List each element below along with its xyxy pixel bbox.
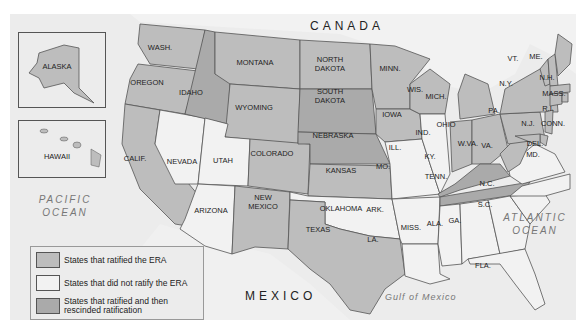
legend-label-not-ratified: States that did not ratify the ERA [64,279,187,288]
label-texas: TEXAS [306,225,331,234]
label-minn: MINN. [379,64,400,73]
label-arizona: ARIZONA [194,206,227,215]
label-north-dakota-1: NORTH [317,55,344,64]
label-sc: S.C. [478,200,493,209]
label-south-dakota-2: DAKOTA [315,96,345,105]
atlantic-ocean-label-2: OCEAN [512,225,558,236]
state-hawaii[interactable] [91,149,101,167]
alaska-inset: ALASKA [18,32,106,108]
label-nebraska: NEBRASKA [313,131,354,140]
label-md: MD. [526,150,540,159]
hawaii-island-1 [40,129,48,133]
label-iowa: IOWA [382,110,402,119]
era-ratification-map: CANADA MEXICO PACIFIC OCEAN ATLANTIC OCE… [10,14,576,320]
label-conn: CONN. [541,119,565,128]
label-ky: KY. [424,152,435,161]
label-montana: MONTANA [237,58,274,67]
hawaii-island-3 [73,142,81,148]
label-colorado: COLORADO [251,149,294,158]
label-ny: N.Y. [499,79,513,88]
label-wis: WIS. [407,85,423,94]
pacific-ocean-label-1: PACIFIC [39,194,92,205]
label-nj: N.J. [521,119,534,128]
label-ill: ILL. [389,143,402,152]
label-la: LA. [367,235,378,244]
legend-swatch-ratified [36,252,60,268]
canada-label: CANADA [310,19,384,33]
legend-item-not-ratified: States that did not ratify the ERA [36,273,198,293]
state-alaska[interactable] [29,45,94,103]
legend-label-ratified: States that ratified the ERA [64,256,167,265]
label-alaska: ALASKA [42,62,71,71]
label-fla: FLA. [475,261,491,270]
legend: States that ratified the ERA States that… [30,246,204,320]
gulf-of-mexico-label: Gulf of Mexico [385,292,457,302]
label-nh: N.H. [540,73,555,82]
label-idaho: IDAHO [179,88,203,97]
label-tenn: TENN. [425,172,448,181]
label-new-mexico-2: MEXICO [248,202,278,211]
state-wyoming[interactable] [225,84,300,144]
label-va: VA. [481,141,493,150]
label-miss: MISS. [401,223,421,232]
label-nc: N.C. [480,179,495,188]
label-ga: GA. [449,216,462,225]
label-kansas: KANSAS [326,166,356,175]
label-nevada: NEVADA [167,157,197,166]
label-ohio: OHIO [436,120,455,129]
label-ri: R.I. [542,104,554,113]
label-ala: ALA. [427,219,443,228]
label-ark: ARK. [366,205,384,214]
label-calif: CALIF. [124,154,147,163]
legend-swatch-not-ratified [36,275,60,291]
label-pa: PA. [488,106,500,115]
alaska-svg: ALASKA [19,33,105,107]
state-florida[interactable] [468,249,545,310]
label-del: DEL. [527,139,544,148]
label-vt: VT. [508,54,519,63]
label-north-dakota-2: DAKOTA [315,64,345,73]
label-mass: MASS. [542,89,565,98]
label-ind: IND. [416,128,431,137]
pacific-ocean-label-2: OCEAN [42,207,88,218]
legend-swatch-rescinded [36,298,60,314]
state-mississippi[interactable] [438,204,462,266]
label-wash: WASH. [148,43,172,52]
hawaii-inset: HAWAII [18,120,106,178]
label-mo: MO. [376,162,390,171]
legend-label-rescinded: States that ratified and then rescinded … [64,297,198,315]
hawaii-svg: HAWAII [19,121,105,177]
atlantic-ocean-label-1: ATLANTIC [502,212,567,223]
label-south-dakota-1: SOUTH [317,87,343,96]
label-hawaii: HAWAII [44,152,70,161]
mexico-label: MEXICO [245,289,316,303]
hawaii-island-2 [60,137,68,141]
label-wva: W.VA. [458,139,478,148]
state-colorado[interactable] [248,139,310,194]
label-utah: UTAH [213,156,233,165]
legend-item-ratified: States that ratified the ERA [36,250,198,270]
label-oregon: OREGON [130,78,163,87]
label-wyoming: WYOMING [235,103,273,112]
label-oklahoma: OKLAHOMA [320,204,363,213]
label-mich: MICH. [425,92,446,101]
label-new-mexico-1: NEW [254,193,272,202]
legend-item-rescinded: States that ratified and then rescinded … [36,296,198,316]
label-me: ME. [529,52,542,61]
